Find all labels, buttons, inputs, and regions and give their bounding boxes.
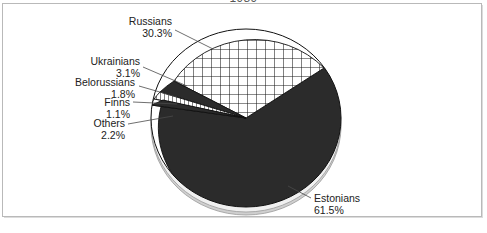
pie-chart bbox=[148, 22, 344, 218]
slice-label-russians-name: Russians bbox=[129, 15, 172, 27]
slice-label-others: Others 2.2% bbox=[20, 118, 125, 141]
slice-label-russians-pct: 30.3% bbox=[60, 28, 172, 40]
chart-title: 1989 bbox=[0, 0, 487, 5]
slice-label-russians: Russians 30.3% bbox=[60, 16, 172, 39]
slice-label-ukrainians-name: Ukrainians bbox=[90, 55, 140, 67]
slice-label-others-name: Others bbox=[93, 117, 125, 129]
slice-label-estonians-pct: 61.5% bbox=[314, 205, 424, 217]
slice-label-estonians: Estonians 61.5% bbox=[314, 193, 424, 216]
slice-label-finns-name: Finns bbox=[104, 96, 130, 108]
pie-svg bbox=[148, 22, 344, 218]
slice-label-belorussians-name: Belorussians bbox=[75, 76, 135, 88]
chart-page: 1989 bbox=[0, 0, 487, 233]
slice-label-estonians-name: Estonians bbox=[314, 192, 360, 204]
slice-label-others-pct: 2.2% bbox=[20, 130, 125, 142]
